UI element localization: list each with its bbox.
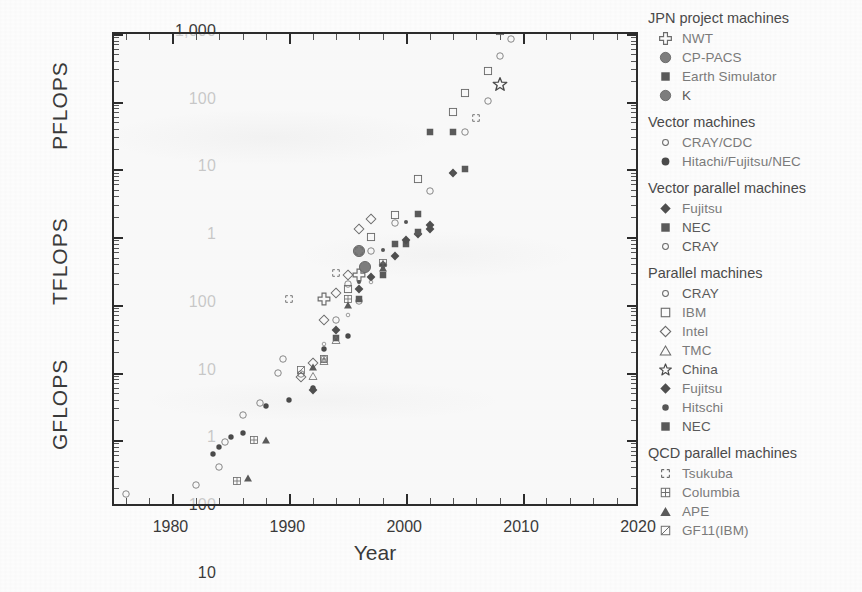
x-tick-minor	[430, 34, 431, 40]
x-tick-minor	[593, 34, 594, 40]
y-tick-minor	[631, 240, 636, 241]
data-point	[366, 246, 376, 256]
y-tick-minor	[114, 273, 119, 274]
x-tick-minor	[359, 34, 360, 40]
x-tick-major	[172, 34, 174, 44]
y-tick-minor	[631, 248, 636, 249]
y-tick-minor	[631, 447, 636, 448]
y-tick-minor	[631, 258, 636, 259]
legend-item[interactable]: APE	[648, 502, 860, 521]
y-tick-minor	[114, 400, 119, 401]
y-tick-minor	[114, 61, 119, 62]
y-tick-minor	[114, 37, 119, 38]
data-point	[460, 164, 470, 174]
y-tick-minor	[114, 240, 119, 241]
data-point	[483, 66, 494, 77]
legend-item-label: K	[682, 88, 691, 103]
y-tick-major	[627, 237, 636, 239]
data-point	[308, 362, 318, 372]
y-tick-minor	[114, 244, 119, 245]
y-tick-minor	[631, 455, 636, 456]
data-point	[425, 127, 435, 137]
y-tick-minor	[114, 184, 119, 185]
y-tick-minor	[114, 190, 119, 191]
legend-item-label: CRAY	[682, 286, 719, 301]
y-tick-major	[114, 305, 123, 307]
y-tick-minor	[631, 49, 636, 50]
legend-item[interactable]: Earth Simulator	[648, 67, 860, 86]
y-unit-gflops: GFLOPS	[48, 359, 72, 450]
y-tick-minor	[114, 205, 119, 206]
data-point	[261, 435, 271, 445]
legend-item[interactable]: Columbia	[648, 483, 860, 502]
y-tick-minor	[631, 252, 636, 253]
legend-item[interactable]: TMC	[648, 341, 860, 360]
legend-item[interactable]: CRAY	[648, 237, 860, 256]
legend-item[interactable]: CRAY	[648, 284, 860, 303]
y-tick-minor	[114, 376, 119, 377]
data-point	[459, 87, 470, 98]
y-tick-minor	[631, 476, 636, 477]
x-tick-minor	[453, 498, 454, 504]
y-tick-minor	[631, 315, 636, 316]
y-tick-minor	[631, 420, 636, 421]
x-tick-minor	[149, 498, 150, 504]
legend-item[interactable]: NEC	[648, 417, 860, 436]
y-tick-minor	[631, 180, 636, 181]
data-point	[449, 169, 457, 177]
legend-group-header: QCD parallel machines	[648, 445, 860, 462]
y-tick-minor	[114, 49, 119, 50]
data-point	[413, 209, 423, 219]
x-tick-major	[289, 34, 291, 44]
legend-item[interactable]: Fujitsu	[648, 199, 860, 218]
data-point	[214, 462, 224, 472]
x-tick-major	[289, 494, 291, 504]
x-tick-minor	[453, 34, 454, 40]
data-point	[494, 34, 505, 37]
legend-item[interactable]: GF11(IBM)	[648, 521, 860, 540]
data-point	[261, 402, 270, 411]
data-point	[331, 315, 341, 325]
legend-item[interactable]: NEC	[648, 218, 860, 237]
data-point	[191, 480, 201, 490]
y-tick-minor	[631, 383, 636, 384]
data-point	[273, 368, 283, 378]
x-tick-minor	[196, 34, 197, 40]
legend-item[interactable]: IBM	[648, 303, 860, 322]
legend-item[interactable]: NWT	[648, 29, 860, 48]
legend-item[interactable]: Intel	[648, 322, 860, 341]
data-point	[238, 410, 248, 420]
y-tick-minor	[631, 273, 636, 274]
legend-item[interactable]: CRAY/CDC	[648, 133, 860, 152]
y-tick-minor	[631, 284, 636, 285]
legend-item[interactable]: Hitschi	[648, 398, 860, 417]
x-tick-minor	[243, 498, 244, 504]
legend-item[interactable]: CP-PACS	[648, 48, 860, 67]
y-tick-minor	[114, 44, 119, 45]
legend-item-label: GF11(IBM)	[682, 523, 749, 538]
y-tick-minor	[114, 248, 119, 249]
data-point	[402, 218, 410, 226]
y-tick-minor	[114, 137, 119, 138]
y-tick-minor	[114, 447, 119, 448]
legend-item[interactable]: Fujitsu	[648, 379, 860, 398]
y-tick-minor	[114, 129, 119, 130]
y-tick-minor	[114, 258, 119, 259]
data-point	[342, 269, 354, 281]
data-point	[319, 353, 330, 364]
legend-item[interactable]: Hitachi/Fujitsu/NEC	[648, 152, 860, 171]
y-tick-minor	[114, 455, 119, 456]
y-tick-minor	[114, 105, 119, 106]
y-tick-minor	[631, 352, 636, 353]
square-filled-icon	[648, 70, 682, 83]
legend-item[interactable]: China	[648, 360, 860, 379]
x-tick-minor	[546, 34, 547, 40]
legend-item[interactable]: Tsukuba	[648, 464, 860, 483]
x-tick-minor	[126, 34, 127, 40]
x-tick-minor	[149, 34, 150, 40]
x-tick-major	[523, 34, 525, 44]
y-tick-minor	[114, 41, 119, 42]
legend-item[interactable]: K	[648, 86, 860, 105]
plot-frame	[112, 32, 638, 506]
data-point	[307, 385, 318, 396]
